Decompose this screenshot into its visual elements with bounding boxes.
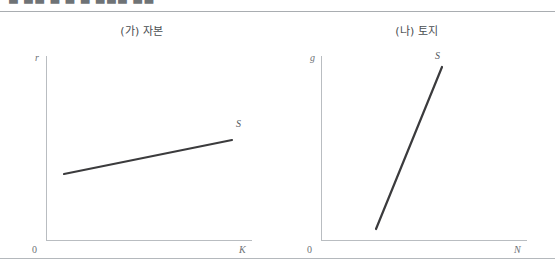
figure-root: ■ ■■ ■ ■ ■ ■■■ ■■ (가) 자본 r K 0 S (나) 토지 … bbox=[0, 0, 555, 268]
panel-title-capital: (가) 자본 bbox=[8, 22, 276, 38]
clipped-header-strip: ■ ■■ ■ ■ ■ ■■■ ■■ bbox=[0, 0, 555, 9]
plot-area-land: g N 0 S bbox=[283, 42, 551, 250]
panel-capital: (가) 자본 r K 0 S bbox=[8, 18, 276, 250]
supply-curve-capital bbox=[64, 140, 232, 174]
curve-layer-land bbox=[283, 42, 551, 250]
curve-layer-capital bbox=[8, 42, 276, 250]
divider-bottom bbox=[0, 258, 555, 259]
divider-top bbox=[0, 11, 555, 12]
plot-area-capital: r K 0 S bbox=[8, 42, 276, 250]
supply-curve-land bbox=[376, 67, 442, 229]
curve-label-land-s: S bbox=[435, 50, 440, 61]
curve-label-capital-s: S bbox=[236, 118, 241, 129]
clipped-header-text: ■ ■■ ■ ■ ■ ■■■ ■■ bbox=[8, 0, 155, 5]
panel-land: (나) 토지 g N 0 S bbox=[283, 18, 551, 250]
panel-title-land: (나) 토지 bbox=[283, 22, 551, 38]
